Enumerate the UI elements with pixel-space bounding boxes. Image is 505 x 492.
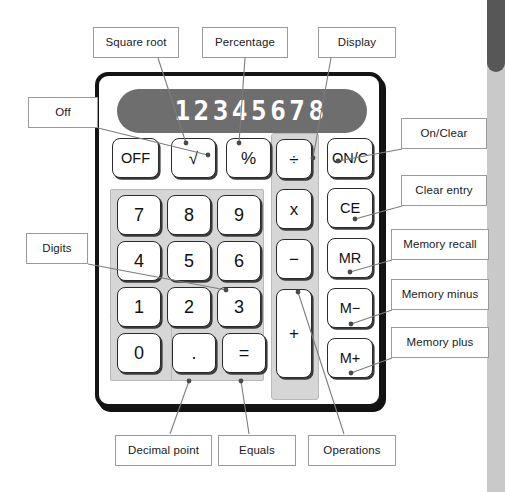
key-plus[interactable]: + bbox=[276, 289, 312, 378]
key-off[interactable]: OFF bbox=[112, 138, 159, 178]
key-divide[interactable]: ÷ bbox=[276, 139, 312, 179]
key-digit-7[interactable]: 7 bbox=[117, 195, 161, 235]
display-value: 12345678 bbox=[117, 96, 367, 126]
key-digit-4[interactable]: 4 bbox=[117, 241, 161, 281]
key-memory-recall[interactable]: MR bbox=[327, 238, 373, 278]
key-digit-5[interactable]: 5 bbox=[167, 241, 211, 281]
key-digit-8[interactable]: 8 bbox=[167, 195, 211, 235]
callout-digits: Digits bbox=[26, 233, 88, 264]
key-memory-plus[interactable]: M+ bbox=[327, 338, 373, 378]
callout-operations: Operations bbox=[308, 435, 396, 466]
callout-off: Off bbox=[28, 97, 98, 128]
callout-display: Display bbox=[318, 27, 396, 58]
calculator-display: 12345678 bbox=[117, 89, 367, 133]
callout-square-root: Square root bbox=[93, 27, 179, 58]
page-edge-dark-band bbox=[487, 0, 505, 72]
calculator-body: 12345678 OFF √ % 7 8 9 4 5 6 1 2 3 0 . =… bbox=[95, 72, 383, 408]
calculator-diagram: 12345678 OFF √ % 7 8 9 4 5 6 1 2 3 0 . =… bbox=[0, 0, 505, 492]
callout-memory-recall: Memory recall bbox=[391, 229, 489, 260]
key-digit-3[interactable]: 3 bbox=[217, 287, 261, 327]
key-digit-6[interactable]: 6 bbox=[217, 241, 261, 281]
callout-clear-entry: Clear entry bbox=[401, 175, 487, 206]
key-decimal-point[interactable]: . bbox=[172, 333, 216, 373]
key-equals[interactable]: = bbox=[222, 333, 266, 373]
key-digit-0[interactable]: 0 bbox=[117, 333, 161, 373]
key-clear-entry[interactable]: CE bbox=[327, 188, 373, 228]
key-minus[interactable]: − bbox=[276, 239, 312, 279]
key-digit-2[interactable]: 2 bbox=[167, 287, 211, 327]
callout-on-clear: On/Clear bbox=[401, 118, 487, 149]
callout-memory-minus: Memory minus bbox=[391, 279, 489, 310]
key-multiply[interactable]: x bbox=[276, 189, 312, 229]
callout-decimal-point: Decimal point bbox=[115, 435, 212, 466]
key-on-clear[interactable]: ON/C bbox=[327, 138, 373, 178]
key-square-root[interactable]: √ bbox=[171, 138, 216, 178]
key-memory-minus[interactable]: M− bbox=[327, 288, 373, 328]
key-digit-9[interactable]: 9 bbox=[217, 195, 261, 235]
key-digit-1[interactable]: 1 bbox=[117, 287, 161, 327]
callout-memory-plus: Memory plus bbox=[391, 327, 489, 358]
callout-percentage: Percentage bbox=[202, 27, 288, 58]
callout-equals: Equals bbox=[218, 435, 296, 466]
key-percent[interactable]: % bbox=[226, 138, 271, 178]
page-edge-strip bbox=[487, 0, 505, 492]
